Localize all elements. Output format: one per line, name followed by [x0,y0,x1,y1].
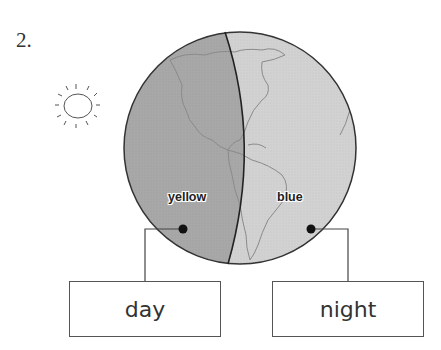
earth-globe-icon [120,30,360,270]
day-side-label: yellow [168,190,206,204]
sun-icon [55,84,100,128]
night-answer-box: night [272,281,424,337]
night-pointer-dot [307,225,316,234]
day-answer-box: day [69,281,221,337]
day-pointer-dot [179,225,188,234]
night-side-label: blue [277,190,303,204]
